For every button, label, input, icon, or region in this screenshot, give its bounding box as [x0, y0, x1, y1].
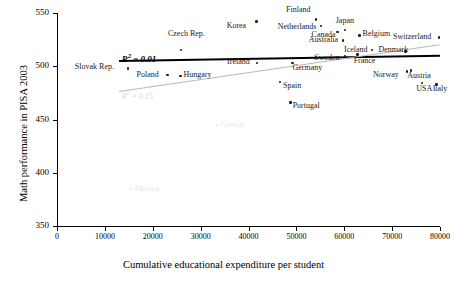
data-point [130, 188, 132, 190]
x-tick-label: 80000 [417, 233, 455, 241]
data-point [127, 67, 129, 69]
data-point [371, 49, 373, 51]
data-point [358, 34, 360, 36]
x-tick-label: 70000 [369, 233, 415, 241]
data-point [279, 81, 281, 83]
point-label: Germany [293, 64, 323, 72]
point-label: Netherlands [278, 23, 317, 31]
y-tick [53, 173, 57, 174]
r2-gray-annotation: R2 = 0.15 [122, 90, 153, 101]
x-tick-label: 10000 [82, 233, 128, 241]
data-point [216, 124, 218, 126]
x-tick-label: 40000 [226, 233, 272, 241]
y-tick-label: 550 [23, 8, 49, 17]
point-label: Poland [137, 71, 159, 79]
point-label: Switzerland [393, 33, 431, 41]
point-label: Australia [309, 36, 338, 44]
x-tick [344, 227, 345, 231]
data-point [406, 70, 408, 72]
x-tick [105, 227, 106, 231]
r2-black-annotation: R2 = 0.01 [122, 52, 157, 64]
point-label: Mexico [135, 185, 159, 193]
point-label: Slovak Rep. [75, 63, 114, 71]
x-tick [296, 227, 297, 231]
y-tick [53, 13, 57, 14]
y-tick-label: 350 [23, 221, 49, 230]
point-label: Austria [407, 72, 431, 80]
point-label: Sweden [314, 54, 339, 62]
point-label: France [354, 57, 376, 65]
y-axis-line [57, 13, 58, 227]
point-label: Italy [433, 85, 448, 93]
point-label: Hungary [184, 71, 212, 79]
data-point [342, 39, 344, 41]
point-label: Norway [373, 71, 399, 79]
data-point [180, 49, 182, 51]
x-tick [249, 227, 250, 231]
data-point [179, 75, 181, 77]
data-point [256, 62, 258, 64]
data-point [344, 29, 346, 31]
point-label: Ireland [227, 58, 250, 66]
data-point [315, 18, 317, 20]
x-tick-label: 50000 [273, 233, 319, 241]
x-tick [153, 227, 154, 231]
data-point [336, 31, 338, 33]
point-label: USA [416, 85, 432, 93]
trendline-black-fit [119, 55, 440, 62]
data-point [289, 101, 291, 103]
point-label: Japan [336, 17, 354, 25]
x-tick-label: 30000 [178, 233, 224, 241]
data-point [438, 36, 440, 38]
point-label: Belgium [363, 30, 391, 38]
y-tick [53, 66, 57, 67]
point-label: Czech Rep. [168, 30, 205, 38]
data-point [166, 74, 168, 76]
point-label: Finland [286, 6, 310, 14]
data-point [320, 25, 322, 27]
point-label: Greece [221, 121, 244, 129]
x-axis-title: Cumulative educational expenditure per s… [0, 259, 447, 270]
x-tick [440, 227, 441, 231]
x-tick-label: 0 [34, 233, 80, 241]
point-label: Spain [283, 82, 301, 90]
y-tick [53, 120, 57, 121]
x-tick [57, 227, 58, 231]
point-label: Korea [227, 22, 247, 30]
x-tick-label: 60000 [321, 233, 367, 241]
point-label: Portugal [293, 102, 320, 110]
data-point [255, 20, 257, 22]
x-tick [201, 227, 202, 231]
x-tick [392, 227, 393, 231]
y-axis-title: Math performance in PISA 2003 [18, 65, 29, 202]
point-label: Denmark [379, 46, 409, 54]
x-tick-label: 20000 [130, 233, 176, 241]
